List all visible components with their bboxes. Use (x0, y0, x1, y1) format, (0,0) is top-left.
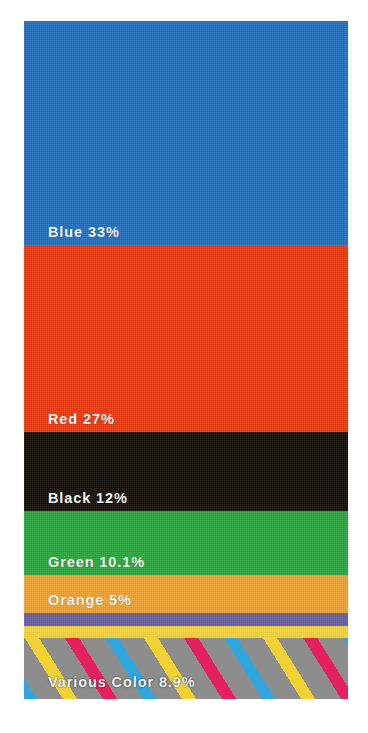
bar-segment-label-various-color: Various Color 8.9% (48, 675, 196, 690)
bar-segment-black[interactable]: Black 12% (24, 432, 348, 511)
bar-segment-label-orange: Orange 5% (48, 593, 132, 608)
bar-segment-yellow[interactable] (24, 626, 348, 638)
bar-segment-label-blue: Blue 33% (48, 225, 120, 240)
bar-segment-orange[interactable]: Orange 5% (24, 575, 348, 613)
bar-segment-various-color[interactable]: Various Color 8.9% (24, 638, 348, 699)
bar-segment-red[interactable]: Red 27% (24, 245, 348, 432)
bar-segment-green[interactable]: Green 10.1% (24, 511, 348, 575)
bar-segment-label-red: Red 27% (48, 412, 115, 427)
bar-segment-purple[interactable] (24, 613, 348, 626)
stacked-bar-chart: Blue 33% Red 27% Black 12% Green 10.1% O… (24, 21, 348, 699)
bar-segment-label-black: Black 12% (48, 491, 128, 506)
bar-segment-label-green: Green 10.1% (48, 555, 145, 570)
diagonal-stripe-pattern (24, 638, 348, 699)
bar-segment-blue[interactable]: Blue 33% (24, 21, 348, 245)
